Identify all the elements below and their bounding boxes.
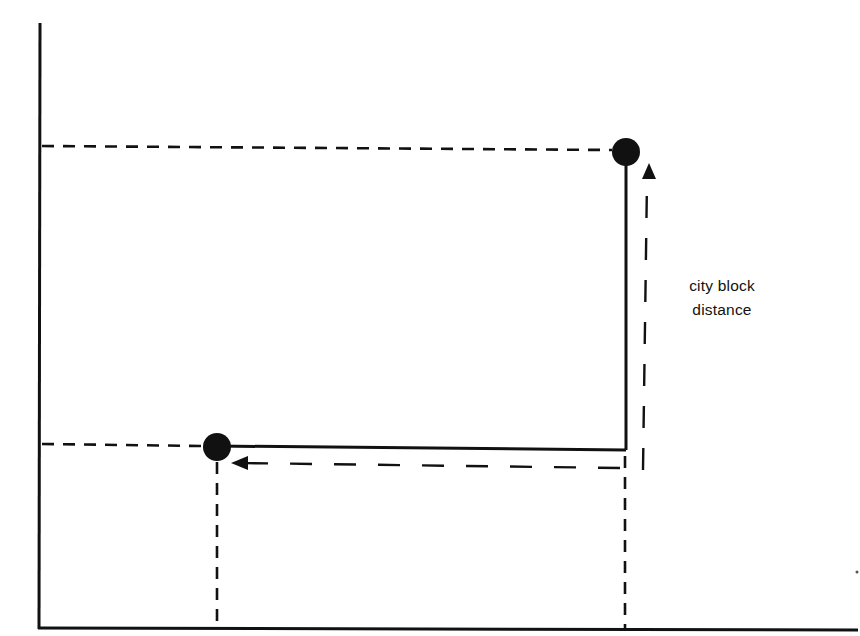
point-a-marker — [203, 433, 231, 461]
city-block-path — [217, 152, 626, 450]
label-line-1: city block — [662, 274, 782, 298]
vertical-distance-arrow — [643, 180, 647, 470]
scan-speck — [856, 571, 859, 574]
arrowhead-up-icon — [642, 163, 656, 179]
x-axis — [38, 628, 858, 630]
point-b-y-projection — [42, 146, 612, 150]
point-b-marker — [612, 138, 640, 166]
horizontal-leg — [217, 446, 626, 450]
horizontal-distance-arrow — [240, 463, 620, 468]
axes — [38, 23, 858, 630]
city-block-distance-label: city block distance — [662, 274, 782, 322]
arrowhead-left-icon — [231, 456, 248, 470]
label-line-2: distance — [662, 298, 782, 322]
projection-lines — [42, 146, 625, 628]
y-axis — [39, 23, 40, 629]
distance-arrows — [240, 180, 647, 470]
point-a-y-projection — [42, 444, 203, 446]
